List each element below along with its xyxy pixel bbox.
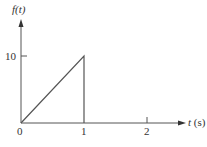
x-tick-label-1: 1 [81,126,87,137]
x-axis-label-unit: (s) [194,116,206,128]
x-axis-label-t: t [188,116,191,128]
chart-figure: f(t) 10 0 1 2 t (s) [0,0,207,147]
y-axis-arrow-icon [19,19,24,27]
x-axis-label: t (s) [188,117,205,128]
x-tick-label-0: 0 [17,126,23,137]
chart-canvas [0,0,207,147]
x-tick-label-2: 2 [144,126,150,137]
series-f-line [21,56,84,123]
y-tick-label-10: 10 [5,51,16,62]
y-axis-label-arg: (t) [15,3,25,15]
x-axis-arrow-icon [178,121,186,126]
y-axis-label: f(t) [12,4,25,15]
